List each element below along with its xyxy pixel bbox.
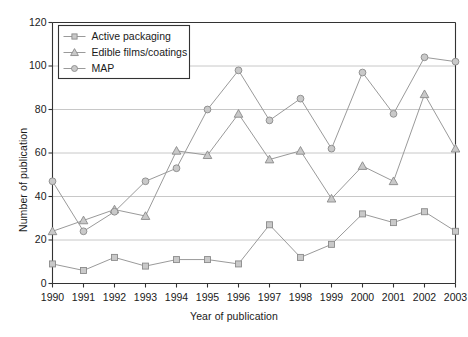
data-point (328, 145, 335, 152)
series-3 (49, 54, 459, 235)
data-point (48, 227, 57, 235)
data-point (204, 106, 211, 113)
data-point (236, 261, 242, 267)
y-tick-label: 100 (13, 59, 47, 71)
data-point (359, 69, 366, 76)
legend-marker-sample (72, 34, 77, 39)
plot-area: Active packagingEdible films/coatingsMAP (0, 0, 468, 337)
data-point (296, 147, 305, 155)
y-axis-title: Number of publication (17, 128, 29, 232)
data-point (390, 110, 397, 117)
data-point (360, 211, 366, 217)
legend-label: Edible films/coatings (92, 46, 188, 58)
data-point (297, 95, 304, 102)
data-point (267, 222, 273, 228)
data-point (420, 90, 429, 98)
data-point (358, 162, 367, 170)
series-1 (50, 209, 459, 274)
series-2 (48, 90, 460, 235)
data-point (389, 177, 398, 185)
legend-label: MAP (92, 62, 115, 74)
data-point (142, 178, 149, 185)
data-point (422, 209, 428, 215)
y-tick-label: 20 (13, 233, 47, 245)
data-point (173, 165, 180, 172)
data-point (421, 54, 428, 61)
y-tick-label: 60 (13, 146, 47, 158)
data-point (235, 67, 242, 74)
data-point (81, 267, 87, 273)
data-point (453, 228, 459, 234)
data-point (50, 261, 56, 267)
data-point (111, 208, 118, 215)
data-point (112, 254, 118, 260)
y-tick-label: 120 (13, 16, 47, 28)
data-point (452, 58, 459, 65)
data-point (80, 228, 87, 235)
data-point (329, 241, 335, 247)
y-tick-label: 40 (13, 190, 47, 202)
data-point (49, 178, 56, 185)
data-point (174, 257, 180, 263)
legend-label: Active packaging (92, 30, 172, 42)
x-axis-title: Year of publication (0, 310, 468, 322)
data-point (172, 147, 181, 155)
publication-trend-line-chart: Number of publication Year of publicatio… (0, 0, 468, 337)
chart-legend: Active packagingEdible films/coatingsMAP (59, 26, 190, 79)
legend-marker-sample (72, 66, 78, 72)
x-tick-label: 2003 (436, 291, 468, 303)
y-tick-label: 0 (13, 277, 47, 289)
data-point (234, 110, 243, 118)
data-point (391, 220, 397, 226)
y-tick-label: 80 (13, 103, 47, 115)
data-point (298, 254, 304, 260)
series-line (53, 57, 456, 231)
data-series-layer (48, 54, 460, 274)
data-point (451, 144, 460, 152)
data-point (143, 263, 149, 269)
data-point (266, 117, 273, 124)
data-point (205, 257, 211, 263)
data-point (79, 216, 88, 224)
